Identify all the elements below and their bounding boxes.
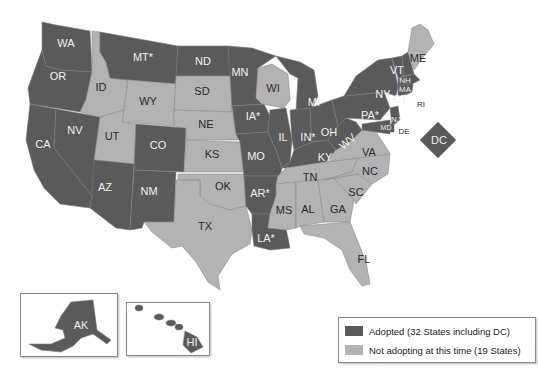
label-DE: DE bbox=[398, 127, 409, 136]
label-WA: WA bbox=[57, 37, 75, 49]
label-AK: AK bbox=[74, 319, 89, 331]
label-SC: SC bbox=[348, 186, 363, 198]
state-AZ bbox=[90, 160, 134, 230]
label-ID: ID bbox=[96, 81, 107, 93]
label-WI: WI bbox=[266, 82, 279, 94]
label-IN: IN* bbox=[300, 131, 316, 143]
label-MT: MT* bbox=[133, 51, 154, 63]
label-AL: AL bbox=[301, 203, 314, 215]
label-OK: OK bbox=[215, 180, 232, 192]
label-UT: UT bbox=[105, 130, 120, 142]
label-NE: NE bbox=[198, 118, 213, 130]
label-CA: CA bbox=[35, 138, 51, 150]
label-MS: MS bbox=[276, 204, 293, 216]
label-HI: HI bbox=[187, 336, 198, 348]
label-TN: TN bbox=[303, 171, 318, 183]
label-VA: VA bbox=[362, 146, 377, 158]
label-WY: WY bbox=[139, 95, 157, 107]
adopted-swatch bbox=[345, 326, 363, 336]
label-FL: FL bbox=[358, 253, 371, 265]
label-MO: MO bbox=[247, 150, 265, 162]
label-MN: MN bbox=[231, 66, 248, 78]
label-MD: MD bbox=[381, 124, 392, 131]
label-NJ: NJ bbox=[391, 115, 401, 124]
label-GA: GA bbox=[330, 203, 347, 215]
legend-item-not-adopted: Not adopting at this time (19 States) bbox=[345, 343, 521, 357]
inset-alaska: AK bbox=[20, 293, 118, 357]
legend-not-adopted-label: Not adopting at this time (19 States) bbox=[369, 345, 521, 356]
label-ME: ME bbox=[410, 52, 427, 64]
label-OR: OR bbox=[50, 70, 67, 82]
label-NC: NC bbox=[362, 165, 378, 177]
inset-hawaii: HI bbox=[126, 302, 210, 356]
state-AK bbox=[29, 300, 111, 352]
label-DC: DC bbox=[431, 134, 447, 146]
label-ND: ND bbox=[195, 55, 211, 67]
label-SD: SD bbox=[194, 85, 209, 97]
label-IA: IA* bbox=[246, 110, 261, 122]
label-NV: NV bbox=[67, 124, 83, 136]
legend: Adopted (32 States including DC) Not ado… bbox=[338, 317, 536, 363]
label-AZ: AZ bbox=[98, 181, 112, 193]
legend-item-adopted: Adopted (32 States including DC) bbox=[345, 324, 510, 338]
label-LA: LA* bbox=[257, 232, 275, 244]
label-KS: KS bbox=[205, 148, 220, 160]
label-NY: NY bbox=[375, 88, 391, 100]
label-NM: NM bbox=[140, 185, 157, 197]
label-TX: TX bbox=[198, 220, 213, 232]
legend-adopted-label: Adopted (32 States including DC) bbox=[369, 326, 510, 337]
label-IL: IL bbox=[278, 131, 287, 143]
label-AR: AR* bbox=[250, 187, 270, 199]
label-PA: PA* bbox=[361, 109, 380, 121]
label-MI: MI* bbox=[308, 96, 325, 108]
state-NM bbox=[130, 170, 176, 230]
label-KY: KY bbox=[318, 151, 333, 163]
label-CT: CT bbox=[393, 93, 408, 105]
label-OH: OH bbox=[321, 126, 338, 138]
label-CO: CO bbox=[150, 139, 167, 151]
label-NH: NH bbox=[399, 76, 411, 85]
label-RI: RI bbox=[417, 100, 425, 109]
label-VT: VT bbox=[390, 64, 404, 76]
not-adopted-swatch bbox=[345, 345, 363, 355]
